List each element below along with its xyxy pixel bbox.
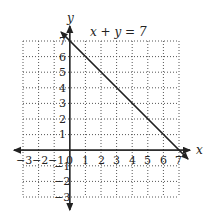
svg-text:3: 3 <box>59 97 66 110</box>
svg-text:5: 5 <box>59 66 66 79</box>
svg-text:−3: −3 <box>16 154 32 167</box>
y-axis-label: y <box>66 11 74 25</box>
svg-text:4: 4 <box>59 82 66 95</box>
svg-text:2: 2 <box>98 154 105 167</box>
svg-text:2: 2 <box>59 113 66 126</box>
graph: y x x + y = 7 −3 −2 −1 0 1 2 3 4 5 6 7 7… <box>0 0 211 219</box>
svg-text:1: 1 <box>82 154 89 167</box>
grid <box>23 41 179 197</box>
svg-text:7: 7 <box>175 154 182 167</box>
svg-text:−2: −2 <box>32 154 48 167</box>
x-tick-labels: −3 −2 −1 0 1 2 3 4 5 6 7 <box>16 154 182 167</box>
svg-text:6: 6 <box>160 154 167 167</box>
svg-text:7: 7 <box>59 35 66 48</box>
svg-text:6: 6 <box>59 51 66 64</box>
x-axis-label: x <box>196 143 203 157</box>
svg-text:4: 4 <box>129 154 136 167</box>
svg-text:−2: −2 <box>54 175 70 188</box>
svg-text:−3: −3 <box>54 191 70 204</box>
svg-text:3: 3 <box>113 154 120 167</box>
equation-label: x + y = 7 <box>90 25 147 39</box>
svg-text:5: 5 <box>144 154 151 167</box>
svg-text:−1: −1 <box>54 160 70 173</box>
svg-text:1: 1 <box>59 128 66 141</box>
